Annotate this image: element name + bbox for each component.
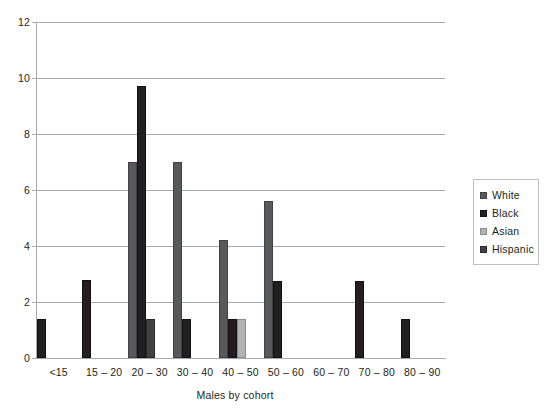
bar xyxy=(355,281,364,358)
bar xyxy=(146,319,155,358)
plot-area xyxy=(36,22,445,358)
bar xyxy=(82,280,91,358)
bar-group xyxy=(355,22,400,358)
legend-swatch-icon xyxy=(480,210,487,217)
legend-item-label: White xyxy=(492,190,520,201)
bar xyxy=(228,319,237,358)
y-axis-tickmark xyxy=(32,190,36,191)
bar xyxy=(219,240,228,358)
gridline xyxy=(36,358,445,359)
y-axis-tick-label: 10 xyxy=(6,73,30,83)
legend-item-label: Black xyxy=(492,208,519,219)
bar xyxy=(182,319,191,358)
legend-item-label: Asian xyxy=(492,226,519,237)
bar-group xyxy=(37,22,82,358)
legend-item: White xyxy=(480,186,533,204)
y-axis-tick-label: 6 xyxy=(6,185,30,195)
y-axis-tickmark xyxy=(32,134,36,135)
y-axis-tick-label: 4 xyxy=(6,241,30,251)
bar-group xyxy=(264,22,309,358)
legend-items: WhiteBlackAsianHispanic xyxy=(480,186,533,258)
bar xyxy=(173,162,182,358)
y-axis-tickmark xyxy=(32,78,36,79)
y-axis-tickmark xyxy=(32,302,36,303)
x-axis-tick-label: 80 – 90 xyxy=(392,366,452,378)
bar-group xyxy=(219,22,264,358)
y-axis-tick-label: 8 xyxy=(6,129,30,139)
legend-item: Hispanic xyxy=(480,240,533,258)
y-axis-tick-label: 12 xyxy=(6,17,30,27)
legend-swatch-icon xyxy=(480,228,487,235)
x-axis-title: Males by cohort xyxy=(0,389,470,401)
bar xyxy=(128,162,137,358)
legend: WhiteBlackAsianHispanic xyxy=(473,179,539,265)
y-axis-tickmark xyxy=(32,22,36,23)
y-axis-tick-label: 2 xyxy=(6,297,30,307)
y-axis-tickmark xyxy=(32,358,36,359)
bar-chart: 024681012 <1515 – 2020 – 3030 – 4040 – 5… xyxy=(0,0,549,413)
legend-item: Asian xyxy=(480,222,533,240)
y-axis-tickmark xyxy=(32,246,36,247)
bar xyxy=(273,281,282,358)
bar-group xyxy=(401,22,446,358)
legend-swatch-icon xyxy=(480,192,487,199)
bar xyxy=(264,201,273,358)
legend-swatch-icon xyxy=(480,246,487,253)
bar xyxy=(37,319,46,358)
y-axis-tick-label: 0 xyxy=(6,353,30,363)
bar-group xyxy=(128,22,173,358)
bar xyxy=(401,319,410,358)
legend-item: Black xyxy=(480,204,533,222)
bar xyxy=(137,86,146,358)
bar-group xyxy=(82,22,127,358)
bar xyxy=(237,319,246,358)
bar-group xyxy=(173,22,218,358)
legend-item-label: Hispanic xyxy=(492,244,534,255)
